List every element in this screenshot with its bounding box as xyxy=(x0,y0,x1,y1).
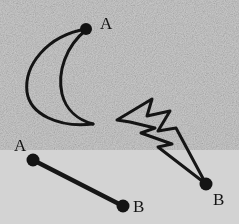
segment-line xyxy=(33,160,123,206)
figure-canvas: A A B B xyxy=(0,0,239,224)
crescent-inner-arc xyxy=(61,30,93,124)
label-a-crescent: A xyxy=(100,15,112,32)
label-b-segment: B xyxy=(133,198,144,215)
label-a-segment: A xyxy=(14,137,26,154)
crescent-moon-shape xyxy=(27,23,93,125)
endpoint-dot-a-crescent xyxy=(80,23,92,35)
endpoint-dot-b-bolt xyxy=(200,178,213,191)
label-b-bolt: B xyxy=(213,191,224,208)
lightning-bolt-shape xyxy=(117,99,213,191)
figure-drawing xyxy=(0,0,239,224)
endpoint-dot-a-segment xyxy=(27,154,40,167)
lightning-bolt-outline xyxy=(117,99,206,184)
line-segment-shape xyxy=(27,154,130,213)
endpoint-dot-b-segment xyxy=(117,200,130,213)
